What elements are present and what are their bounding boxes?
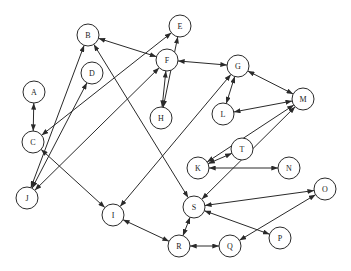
node-A: A <box>23 81 45 103</box>
node-label: M <box>299 95 306 104</box>
node-label: H <box>158 114 164 123</box>
node-label: T <box>240 145 245 154</box>
node-S: S <box>183 196 205 218</box>
node-I: I <box>102 204 124 226</box>
node-label: K <box>195 164 201 173</box>
edge-A-C <box>33 103 34 131</box>
edge-G-L <box>226 77 234 104</box>
edge-I-R <box>123 220 169 242</box>
node-O: O <box>314 178 336 200</box>
node-label: J <box>25 194 28 203</box>
node-label: E <box>178 22 183 31</box>
node-E: E <box>169 15 191 37</box>
node-label: S <box>192 203 196 212</box>
node-label: F <box>165 56 170 65</box>
graph-diagram: ABCDEFGHIJKLMNOPQRST <box>0 0 351 271</box>
node-label: L <box>221 110 226 119</box>
edge-S-R <box>183 217 190 235</box>
node-label: G <box>235 62 241 71</box>
node-M: M <box>292 88 314 110</box>
node-N: N <box>278 157 300 179</box>
edge-S-P <box>204 211 269 235</box>
edge-B-J <box>31 45 84 187</box>
node-T: T <box>231 138 253 160</box>
nodes-layer: ABCDEFGHIJKLMNOPQRST <box>16 15 336 257</box>
edge-S-O <box>205 191 314 206</box>
node-G: G <box>227 55 249 77</box>
node-P: P <box>269 227 291 249</box>
node-label: B <box>85 31 90 40</box>
node-label: Q <box>227 242 233 251</box>
node-J: J <box>16 187 38 209</box>
edge-F-J <box>35 68 159 191</box>
node-label: O <box>322 185 328 194</box>
edge-F-G <box>178 61 227 65</box>
node-label: C <box>30 138 35 147</box>
node-B: B <box>77 24 99 46</box>
node-label: R <box>176 242 182 251</box>
edge-B-F <box>98 38 156 56</box>
edge-L-M <box>234 101 292 112</box>
node-label: I <box>112 211 115 220</box>
node-label: N <box>286 164 292 173</box>
edge-C-I <box>41 149 105 207</box>
node-Q: Q <box>219 235 241 257</box>
edge-G-M <box>248 71 293 94</box>
node-H: H <box>150 107 172 129</box>
node-C: C <box>22 131 44 153</box>
node-F: F <box>156 49 178 71</box>
node-R: R <box>168 235 190 257</box>
node-label: D <box>89 69 95 78</box>
node-label: P <box>278 234 283 243</box>
node-D: D <box>81 62 103 84</box>
node-L: L <box>212 103 234 125</box>
node-K: K <box>187 157 209 179</box>
node-label: A <box>31 88 37 97</box>
